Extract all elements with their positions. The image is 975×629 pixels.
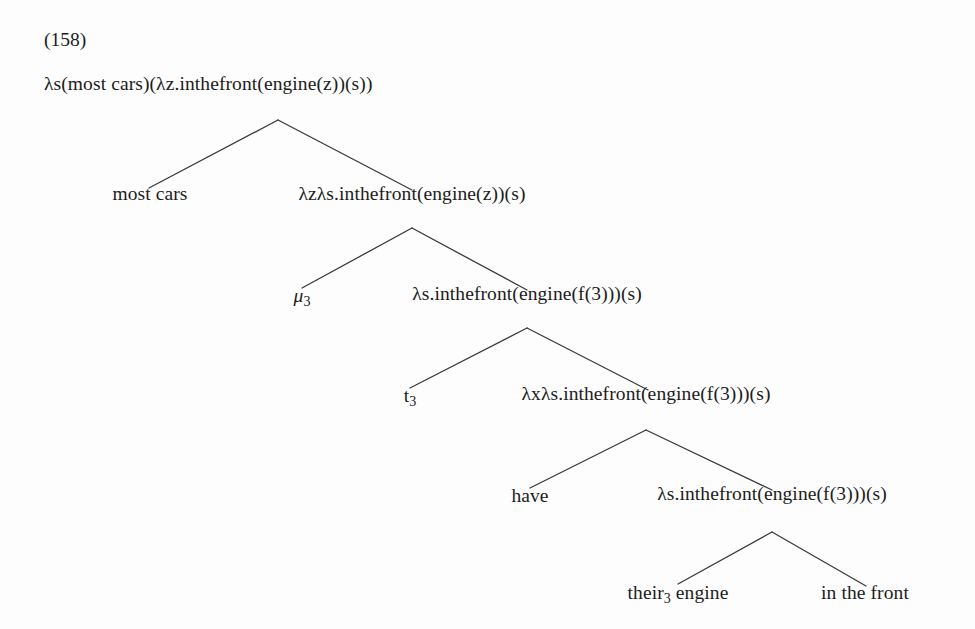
tree-node-l4-left: have — [511, 486, 548, 506]
tree-node-l3-right: λxλs.inthefront(engine(f(3)))(s) — [522, 384, 771, 404]
tree-node-l2-right: λs.inthefront(engine(f(3)))(s) — [412, 284, 642, 304]
example-number: (158) — [44, 30, 86, 50]
tree-node-l1-right: λzλs.inthefront(engine(z))(s) — [298, 184, 525, 204]
node-label-base: their — [628, 582, 664, 603]
node-label-base: μ — [294, 285, 304, 306]
tree-branch-b3-right — [527, 328, 648, 390]
node-label-rest: engine — [671, 582, 729, 603]
tree-branch-b5-left — [678, 532, 772, 584]
tree-branch-b3-left — [410, 328, 527, 388]
tree-branch-b2-left — [302, 228, 412, 288]
tree-node-l2-left: μ3 — [294, 286, 311, 308]
tree-node-l5-left: their3 engine — [628, 583, 729, 605]
tree-branch-b5-right — [772, 532, 866, 586]
tree-node-l4-right: λs.inthefront(engine(f(3)))(s) — [657, 484, 887, 504]
tree-branch-b4-left — [530, 430, 646, 488]
node-label-subscript: 3 — [303, 293, 310, 309]
tree-branch-b1-left — [149, 120, 278, 188]
tree-node-root: λs(most cars)(λz.inthefront(engine(z))(s… — [44, 74, 372, 94]
tree-branch-lines — [0, 0, 975, 629]
tree-node-l5-right: in the front — [821, 583, 909, 603]
tree-branch-b2-right — [412, 228, 527, 290]
tree-branch-b1-right — [278, 120, 412, 190]
derivation-tree-page: (158) λs(most cars)(λz.inthefront(engine… — [0, 0, 975, 629]
tree-node-l3-left: t3 — [404, 386, 417, 408]
tree-node-l1-left: most cars — [112, 184, 187, 204]
tree-branch-b4-right — [646, 430, 772, 490]
node-label-subscript: 3 — [409, 393, 416, 409]
